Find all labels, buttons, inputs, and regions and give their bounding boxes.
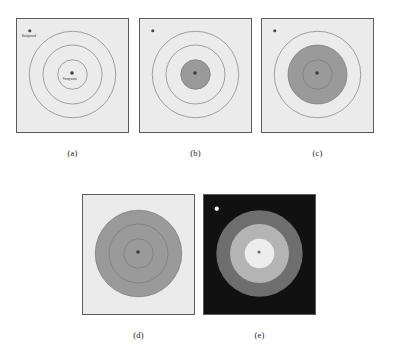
panel-b-canvas xyxy=(140,19,251,132)
panel-a-foreground-seed[interactable] xyxy=(70,71,74,75)
panel-e-background-seed[interactable] xyxy=(215,207,219,211)
caption-b: (b) xyxy=(139,148,252,158)
caption-d: (d) xyxy=(82,330,195,340)
panel-d-canvas xyxy=(83,195,194,314)
panel-b[interactable] xyxy=(139,18,252,133)
panel-b-background-seed[interactable] xyxy=(151,29,154,32)
segmentation-figure: BackgroundForeground(a)(b)(c)(d)(e) xyxy=(0,0,393,360)
panel-c-background-seed[interactable] xyxy=(273,29,276,32)
caption-c: (c) xyxy=(261,148,374,158)
panel-c[interactable] xyxy=(261,18,374,133)
caption-e: (e) xyxy=(203,330,316,340)
panel-a-background-seed-label: Background xyxy=(22,35,36,38)
panel-c-foreground-seed[interactable] xyxy=(315,71,319,75)
caption-a: (a) xyxy=(16,148,129,158)
panel-a-foreground-seed-label: Foreground xyxy=(63,78,76,81)
panel-d[interactable] xyxy=(82,194,195,315)
panel-c-canvas xyxy=(262,19,373,132)
panel-d-foreground-seed[interactable] xyxy=(136,250,140,254)
panel-a[interactable]: BackgroundForeground xyxy=(16,18,129,133)
panel-e[interactable] xyxy=(203,194,316,315)
panel-e-foreground-seed[interactable] xyxy=(257,250,260,253)
panel-a-background-seed[interactable] xyxy=(28,29,31,32)
panel-b-foreground-seed[interactable] xyxy=(193,71,197,75)
panel-e-canvas xyxy=(204,195,315,314)
